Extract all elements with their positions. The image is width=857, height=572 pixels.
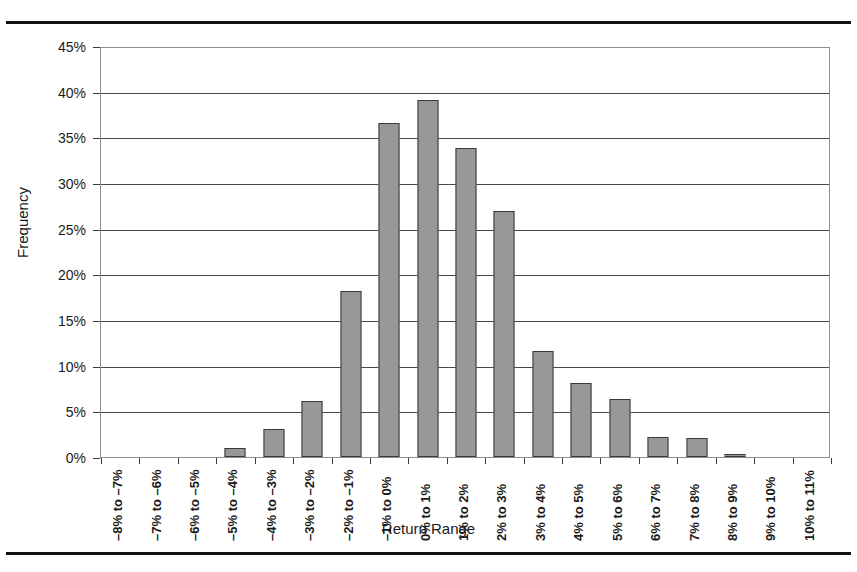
bar-slot[interactable] [447,48,485,457]
bar[interactable] [686,438,707,457]
y-tick-label: 40% [58,85,86,101]
y-tick-label: 0% [66,450,86,466]
bar-slot[interactable] [255,48,293,457]
bar[interactable] [494,211,515,457]
bar-slot[interactable] [754,48,792,457]
bar[interactable] [724,454,745,457]
y-tick-mark [93,138,100,139]
bar[interactable] [532,351,553,457]
bar[interactable] [609,399,630,457]
y-tick-label: 45% [58,39,86,55]
y-tick-mark [93,367,100,368]
bar-slot[interactable] [716,48,754,457]
y-tick-label: 25% [58,222,86,238]
y-tick-label: 30% [58,176,86,192]
top-rule [6,21,851,24]
bar[interactable] [302,401,323,457]
y-tick-mark [93,321,100,322]
bar-slot[interactable] [793,48,831,457]
top-caption [258,0,818,8]
bottom-rule [6,552,851,555]
bar[interactable] [455,148,476,457]
bar[interactable] [263,429,284,457]
x-axis-title: Return Range [0,520,857,537]
y-tick-mark [93,458,100,459]
y-tick-mark [93,47,100,48]
y-tick-mark [93,412,100,413]
bar[interactable] [379,123,400,457]
bar-series [101,48,829,457]
bar[interactable] [417,100,438,457]
bar-slot[interactable] [524,48,562,457]
bar-slot[interactable] [178,48,216,457]
y-tick-label: 35% [58,130,86,146]
y-tick-mark [93,230,100,231]
y-tick-mark [93,184,100,185]
y-tick-label: 15% [58,313,86,329]
x-tick-mark [831,458,832,464]
y-tick-mark [93,275,100,276]
bar-slot[interactable] [639,48,677,457]
y-tick-mark [93,93,100,94]
bar[interactable] [340,291,361,457]
bar-slot[interactable] [332,48,370,457]
bar[interactable] [571,383,592,457]
bar-slot[interactable] [677,48,715,457]
y-tick-label: 20% [58,267,86,283]
chart-page: Frequency 45%40%35%30%25%20%15%10%5%0% –… [0,0,857,572]
y-axis-tick-labels: 45%40%35%30%25%20%15%10%5%0% [28,47,92,458]
bar-slot[interactable] [562,48,600,457]
bar[interactable] [648,437,669,457]
bar-slot[interactable] [370,48,408,457]
y-tick-label: 5% [66,404,86,420]
bar-slot[interactable] [485,48,523,457]
bar-slot[interactable] [600,48,638,457]
histogram-chart: Frequency 45%40%35%30%25%20%15%10%5%0% –… [0,26,857,550]
bar-slot[interactable] [293,48,331,457]
bar[interactable] [225,448,246,457]
bar-slot[interactable] [139,48,177,457]
bar-slot[interactable] [101,48,139,457]
bar-slot[interactable] [408,48,446,457]
bar-slot[interactable] [216,48,254,457]
y-tick-label: 10% [58,359,86,375]
